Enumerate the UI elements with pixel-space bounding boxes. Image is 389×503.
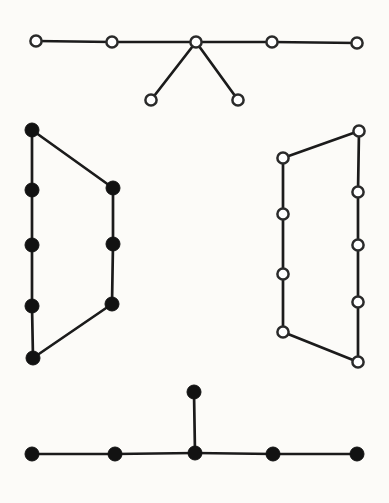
graph-node-open [277,152,288,163]
scanned-graph-figure-page [0,0,389,503]
graph-node-open [352,186,363,197]
graph-node-filled [25,447,39,461]
graph-node-filled [25,123,39,137]
graph-edge [112,244,113,304]
graph-node-filled [26,351,40,365]
graph-edge [115,453,195,454]
graph-node-filled [108,447,122,461]
graph-node-filled [350,447,364,461]
graph-node-filled [266,447,280,461]
graph-node-filled [187,385,201,399]
graph-edge [195,453,273,454]
graph-node-filled [25,183,39,197]
graph-node-open [277,268,288,279]
graph-node-filled [105,297,119,311]
figure-canvas [0,0,389,503]
graph-node-open [352,356,363,367]
graph-node-open [106,36,117,47]
graph-edge [358,131,359,192]
graph-node-filled [188,446,202,460]
graph-node-open [352,296,363,307]
graph-node-open [277,208,288,219]
graph-node-open [30,35,41,46]
graph-node-open [145,94,156,105]
graph-node-open [277,326,288,337]
graph-edge [194,392,195,453]
graph-node-open [353,125,364,136]
graph-node-filled [106,181,120,195]
graph-node-filled [106,237,120,251]
graph-edge [272,42,357,43]
graph-node-open [266,36,277,47]
graph-node-open [190,36,201,47]
graph-node-open [232,94,243,105]
graph-edge [36,41,112,42]
graph-node-filled [25,299,39,313]
graph-node-open [351,37,362,48]
graph-node-filled [25,238,39,252]
graph-figure-svg [0,0,389,503]
graph-node-open [352,239,363,250]
graph-edge [32,306,33,358]
